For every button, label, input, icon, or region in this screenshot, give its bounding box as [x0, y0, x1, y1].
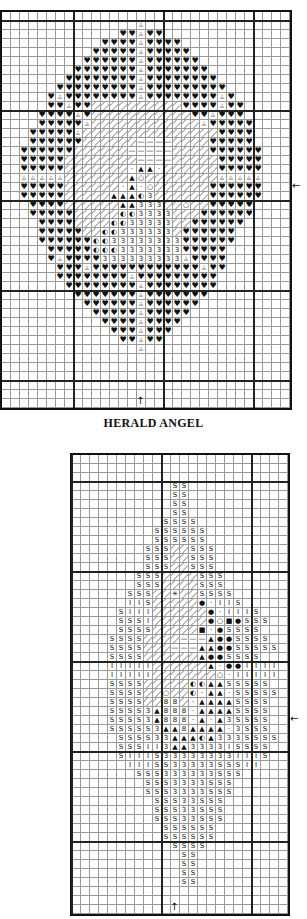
stitch-cell: S [207, 824, 216, 833]
stitch-cell: S [189, 878, 198, 887]
grid-cell [281, 228, 290, 237]
grid-cell [227, 264, 236, 273]
grid-cell [72, 698, 81, 707]
grid-cell [234, 518, 243, 527]
stitch-cell: ♥ [164, 273, 173, 282]
grid-cell [81, 509, 90, 518]
stitch-cell: ♥ [92, 309, 101, 318]
grid-cell [135, 905, 144, 914]
grid-cell [135, 500, 144, 509]
stitch-cell: ▲ [207, 635, 216, 644]
grid-cell [38, 399, 47, 408]
grid-cell [56, 327, 65, 336]
grid-cell [180, 455, 189, 464]
stitch-cell: 3 [171, 788, 180, 797]
stitch-cell: 3 [164, 246, 173, 255]
grid-cell [225, 878, 234, 887]
grid-cell [72, 617, 81, 626]
grid-cell [254, 327, 263, 336]
grid-cell [81, 581, 90, 590]
stitch-cell: ♥ [110, 327, 119, 336]
grid-cell [47, 57, 56, 66]
grid-cell [281, 111, 290, 120]
stitch-cell: ♥ [83, 75, 92, 84]
grid-cell [261, 878, 270, 887]
grid-cell [119, 390, 128, 399]
stitch-cell: ♥ [38, 111, 47, 120]
grid-cell [11, 345, 20, 354]
stitch-cell: ♥ [191, 237, 200, 246]
stitch-cell: 3 [137, 255, 146, 264]
stitch-cell [110, 156, 119, 165]
grid-cell [254, 237, 263, 246]
grid-cell [20, 138, 29, 147]
grid-cell [191, 399, 200, 408]
stitch-cell: ♥ [56, 84, 65, 93]
grid-cell [207, 518, 216, 527]
stitch-cell: ♥ [218, 237, 227, 246]
stitch-cell: — [171, 644, 180, 653]
grid-cell [56, 309, 65, 318]
grid-cell [99, 455, 108, 464]
grid-cell [234, 905, 243, 914]
grid-cell [281, 354, 290, 363]
stitch-cell [83, 174, 92, 183]
grid-cell [126, 860, 135, 869]
grid-cell [20, 354, 29, 363]
stitch-cell: I [144, 671, 153, 680]
grid-cell [263, 84, 272, 93]
grid-cell [254, 30, 263, 39]
grid-cell [200, 21, 209, 30]
grid-cell [72, 707, 81, 716]
grid-cell [144, 797, 153, 806]
grid-cell [110, 354, 119, 363]
stitch-cell: · [225, 725, 234, 734]
grid-cell [272, 66, 281, 75]
grid-cell [81, 680, 90, 689]
stitch-cell [92, 165, 101, 174]
grid-cell [29, 399, 38, 408]
stitch-cell: ♙ [137, 66, 146, 75]
grid-cell [2, 48, 11, 57]
stitch-cell: 8 [162, 707, 171, 716]
stitch-cell: ♙ [128, 273, 137, 282]
grid-cell [108, 815, 117, 824]
grid-cell [47, 273, 56, 282]
center-arrow-right-icon: ← [292, 181, 300, 191]
stitch-cell: 3 [146, 255, 155, 264]
stitch-cell: ♥ [236, 183, 245, 192]
grid-cell [236, 399, 245, 408]
grid-cell [2, 399, 11, 408]
grid-cell [200, 327, 209, 336]
grid-cell [270, 617, 279, 626]
grid-cell [119, 381, 128, 390]
stitch-cell: ♥ [128, 75, 137, 84]
stitch-cell [146, 174, 155, 183]
grid-cell [117, 806, 126, 815]
grid-cell [81, 590, 90, 599]
grid-cell [225, 824, 234, 833]
grid-cell [38, 246, 47, 255]
grid-cell [72, 878, 81, 887]
grid-cell [38, 273, 47, 282]
stitch-cell: S [144, 770, 153, 779]
stitch-cell: ♥ [182, 75, 191, 84]
grid-cell [119, 345, 128, 354]
grid-cell [263, 309, 272, 318]
grid-cell [92, 390, 101, 399]
stitch-cell [101, 219, 110, 228]
grid-cell [72, 464, 81, 473]
stitch-cell: ♥ [110, 84, 119, 93]
stitch-cell: ♥ [110, 75, 119, 84]
stitch-cell: S [180, 869, 189, 878]
stitch-cell: ♥ [146, 336, 155, 345]
stitch-cell: ♥ [56, 246, 65, 255]
grid-cell [252, 518, 261, 527]
grid-cell [270, 788, 279, 797]
grid-cell [90, 851, 99, 860]
grid-cell [209, 345, 218, 354]
stitch-cell: ♥ [164, 39, 173, 48]
grid-cell [81, 482, 90, 491]
stitch-cell: S [198, 554, 207, 563]
grid-cell [117, 455, 126, 464]
